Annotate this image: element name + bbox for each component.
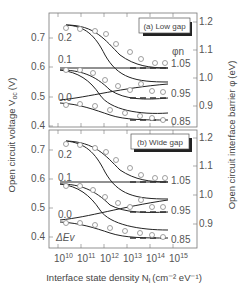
curve-label-b-0.95: 0.95 [171,205,191,216]
panel-b-legend: (b) Wide gap [131,134,192,152]
panel-b-label: (b) Wide gap [137,138,183,147]
y-tick-b-0.4: 0.4 [31,231,45,242]
y2-tick-b-1.1: 1.1 [199,160,213,171]
y-axis-right-title: Open circuit interface barrier φ(eV) [226,61,237,210]
curves-panel-a [60,25,168,120]
curve-label-b-1.05: 1.05 [171,175,191,186]
svg-text:1012: 1012 [100,252,119,264]
y2-tick-a-1.0: 1.0 [199,72,213,83]
y2-tick-a-1.2: 1.2 [199,16,213,27]
phi-n-label: φn [172,46,184,57]
curve-label-b-0.2: 0.2 [58,149,72,160]
chart: 0.7 0.6 0.5 0.4 0.7 0.6 0.5 0.4 1.2 1.1 … [0,0,247,296]
x-tick-labels: 1010 1011 1012 1013 1014 1015 [54,252,188,264]
y-tick-a-0.5: 0.5 [31,91,45,102]
curve-label-b-0.85: 0.85 [171,234,191,245]
svg-text:1010: 1010 [54,252,73,264]
markers-panel-a [64,26,168,123]
curve-label-a-0.85: 0.85 [171,116,191,127]
y-tick-b-0.6: 0.6 [31,173,45,184]
svg-text:1011: 1011 [77,252,95,264]
svg-text:1014: 1014 [146,252,165,264]
y2-tick-b-1.2: 1.2 [199,132,213,143]
y2-tick-a-0.9: 0.9 [199,100,213,111]
y2-tick-b-0.9: 0.9 [199,218,213,229]
curve-label-a-0.0: 0.0 [58,92,72,103]
panel-a-legend: (a) Low gap [139,18,192,36]
y2-tick-a-1.1: 1.1 [199,44,213,55]
svg-text:1015: 1015 [169,252,188,264]
svg-text:1013: 1013 [123,252,142,264]
y2-tick-b-1.0: 1.0 [199,189,213,200]
curve-label-b-0.1: 0.1 [58,172,72,183]
y-tick-a-0.7: 0.7 [31,32,45,43]
y-tick-b-0.7: 0.7 [31,144,45,155]
y-tick-a-0.6: 0.6 [31,61,45,72]
x-axis-title: Interface state density Ni(cm⁻² eV⁻¹) [46,272,202,284]
y-axis-left-title: Open circuit voltage Voc(V) [6,77,18,192]
delta-ev-label: ΔEv [55,232,75,243]
y-tick-a-0.4: 0.4 [31,120,45,131]
curve-label-a-0.2: 0.2 [58,32,72,43]
curve-label-a-0.95: 0.95 [171,88,191,99]
y-tick-b-0.5: 0.5 [31,202,45,213]
curves-panel-b [60,141,168,238]
curve-label-a-0.1: 0.1 [58,54,72,65]
panel-a-label: (a) Low gap [143,22,186,31]
curve-label-a-1.05: 1.05 [171,58,191,69]
